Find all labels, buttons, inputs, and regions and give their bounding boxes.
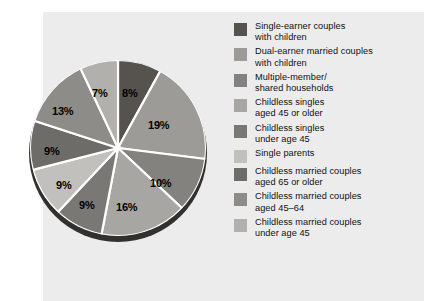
legend-item[interactable]: Single parents bbox=[234, 148, 420, 163]
legend-item[interactable]: Multiple-member/shared households bbox=[234, 72, 420, 94]
legend-item-label: Dual-earner married coupleswith children bbox=[255, 46, 373, 68]
pie-slice-percent-label: 7% bbox=[92, 88, 108, 99]
legend-swatch-childless-married-65-older bbox=[234, 168, 247, 181]
pie-slice-percent-label: 10% bbox=[150, 178, 171, 189]
legend-swatch-single-earner-couples bbox=[234, 23, 247, 36]
legend-swatch-childless-married-45-64 bbox=[234, 193, 247, 206]
legend-item[interactable]: Single-earner coupleswith children bbox=[234, 21, 420, 43]
legend-swatch-dual-earner-couples bbox=[234, 48, 247, 61]
legend-item[interactable]: Childless singlesunder age 45 bbox=[234, 123, 420, 145]
pie-slice-percent-label: 9% bbox=[56, 180, 72, 191]
legend-item[interactable]: Dual-earner married coupleswith children bbox=[234, 46, 420, 68]
pie-slice-percent-label: 9% bbox=[44, 146, 60, 157]
legend: Single-earner coupleswith childrenDual-e… bbox=[234, 21, 420, 242]
pie-slice-percent-label: 9% bbox=[79, 200, 95, 211]
legend-item[interactable]: Childless married couplesaged 65 or olde… bbox=[234, 166, 420, 188]
legend-item[interactable]: Childless married couplesaged 45–64 bbox=[234, 191, 420, 213]
legend-item-label: Childless married couplesaged 65 or olde… bbox=[255, 166, 361, 188]
pie-slice-percent-label: 13% bbox=[52, 106, 73, 117]
pie-slice-percent-label: 19% bbox=[148, 120, 169, 131]
legend-item-label: Single-earner coupleswith children bbox=[255, 21, 345, 43]
legend-item-label: Single parents bbox=[255, 148, 314, 159]
legend-item-label: Childless singlesaged 45 or older bbox=[255, 97, 324, 119]
legend-item[interactable]: Childless singlesaged 45 or older bbox=[234, 97, 420, 119]
legend-swatch-childless-married-under-45 bbox=[234, 219, 247, 232]
legend-swatch-single-parents bbox=[234, 150, 247, 163]
legend-item-label: Childless singlesunder age 45 bbox=[255, 123, 324, 145]
legend-item-label: Multiple-member/shared households bbox=[255, 72, 334, 94]
legend-swatch-childless-singles-45-older bbox=[234, 99, 247, 112]
legend-item-label: Childless married couplesaged 45–64 bbox=[255, 191, 361, 213]
legend-swatch-multiple-member bbox=[234, 74, 247, 87]
legend-item-label: Childless married couplesunder age 45 bbox=[255, 217, 361, 239]
pie-slice-percent-label: 8% bbox=[122, 88, 138, 99]
legend-swatch-childless-singles-under-45 bbox=[234, 125, 247, 138]
pie-chart-area: 8%19%10%16%9%9%9%13%7% bbox=[0, 0, 212, 301]
pie-slice-percent-label: 16% bbox=[116, 202, 137, 213]
legend-item[interactable]: Childless married couplesunder age 45 bbox=[234, 217, 420, 239]
